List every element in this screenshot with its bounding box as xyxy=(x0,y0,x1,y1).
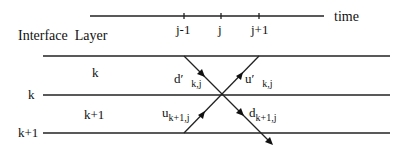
tick-label-j: j xyxy=(218,23,222,36)
header-label: Interface Layer xyxy=(18,29,107,43)
wave-u: uk+1,j xyxy=(162,106,189,119)
layer-label-k+1: k+1 xyxy=(84,108,104,121)
time-label: time xyxy=(334,10,359,24)
interface-label-k: k xyxy=(28,88,35,101)
wave-u-prime: u′k,j xyxy=(245,72,273,85)
down-ray xyxy=(184,56,270,142)
interface-label-k+1: k+1 xyxy=(18,126,38,139)
layer-label-k: k xyxy=(92,66,99,79)
wave-d-prime: d′k,j xyxy=(174,72,202,85)
wave-d: dk+1,j xyxy=(249,106,276,119)
tick-label-j+1: j+1 xyxy=(251,23,268,36)
tick-label-j-1: j-1 xyxy=(176,23,190,36)
